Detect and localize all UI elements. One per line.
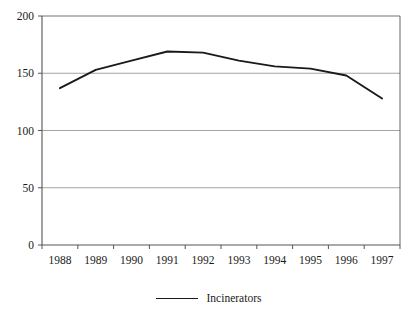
series-line-incinerators [60, 51, 382, 98]
chart-legend: Incinerators [0, 286, 417, 310]
x-tick-label-1996: 1996 [335, 254, 358, 266]
legend-label-incinerators: Incinerators [207, 292, 262, 304]
x-tick-label-1988: 1988 [48, 254, 71, 266]
legend-line-swatch-incinerators [156, 298, 198, 299]
y-tick-label-50: 50 [23, 182, 35, 194]
y-tick-label-150: 150 [17, 67, 35, 79]
y-tick-label-0: 0 [28, 239, 34, 251]
x-tick-label-1992: 1992 [192, 254, 215, 266]
y-tick-label-100: 100 [17, 125, 35, 137]
x-tick-label-1997: 1997 [371, 254, 394, 266]
chart-canvas: 0501001502001988198919901991199219931994… [0, 0, 417, 280]
y-tick-label-200: 200 [17, 10, 35, 22]
x-tick-label-1991: 1991 [156, 254, 179, 266]
x-tick-label-1993: 1993 [227, 254, 250, 266]
x-tick-label-1994: 1994 [263, 254, 286, 266]
x-tick-label-1995: 1995 [299, 254, 322, 266]
x-tick-label-1989: 1989 [84, 254, 107, 266]
line-chart: 0501001502001988198919901991199219931994… [0, 0, 417, 316]
x-tick-label-1990: 1990 [120, 254, 143, 266]
plot-area: 0501001502001988198919901991199219931994… [0, 0, 417, 280]
